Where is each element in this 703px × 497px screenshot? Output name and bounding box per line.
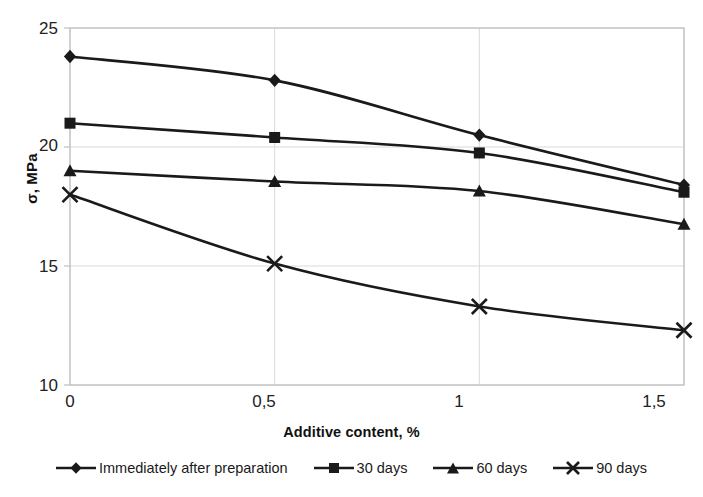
data-point-square xyxy=(679,187,690,198)
data-point-square xyxy=(65,118,76,129)
legend-label-1: 30 days xyxy=(357,461,408,476)
legend-label-3: 90 days xyxy=(596,461,647,476)
plot-area xyxy=(0,0,703,497)
line-chart: σ, MPa 25 20 15 10 0 0,5 1 1,5 Additive … xyxy=(0,0,703,497)
data-point-square xyxy=(269,132,280,143)
legend-item-2[interactable]: 60 days xyxy=(433,460,527,476)
legend-item-0[interactable]: Immediately after preparation xyxy=(56,460,288,476)
legend-item-3[interactable]: 90 days xyxy=(553,460,647,476)
square-marker-icon xyxy=(314,460,354,476)
x-marker-icon xyxy=(553,460,593,476)
diamond-marker-icon xyxy=(56,460,96,476)
data-point-square xyxy=(474,147,485,158)
chart-legend: Immediately after preparation 30 days 60… xyxy=(0,460,703,476)
triangle-marker-icon xyxy=(433,460,473,476)
plot-background xyxy=(70,28,684,385)
legend-item-1[interactable]: 30 days xyxy=(314,460,408,476)
legend-label-0: Immediately after preparation xyxy=(99,461,288,476)
legend-label-2: 60 days xyxy=(476,461,527,476)
